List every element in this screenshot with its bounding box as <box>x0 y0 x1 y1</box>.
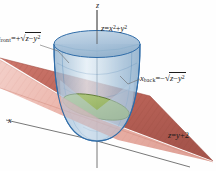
calculus-3d-figure: z=x2+y2 z=y+2 xfront=+√z−y2 xback=−√z−y2… <box>0 0 216 171</box>
leader-line-plane <box>152 96 168 100</box>
figure-canvas <box>0 0 216 171</box>
